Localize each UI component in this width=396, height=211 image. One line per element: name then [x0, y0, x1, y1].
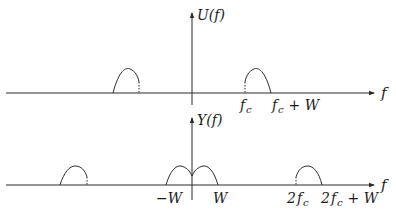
tick-label-fc: f c	[239, 97, 252, 115]
tick-label-W: W	[213, 190, 229, 206]
bottom-left-lobe	[60, 166, 87, 185]
spectrum-diagram: U(f) f f c f c + W Y(f) f −W	[0, 0, 396, 211]
top-x-axis-label: f	[380, 84, 389, 102]
tick-label-2fc-plus-W: 2 f c + W	[320, 190, 380, 208]
bottom-right-lobe	[296, 166, 322, 185]
tick-label-fc-plus-W: f c + W	[271, 97, 321, 115]
bottom-x-axis-label: f	[380, 176, 389, 194]
top-right-lobe	[245, 68, 271, 93]
top-left-lobe	[113, 68, 139, 93]
bottom-y-axis-label: Y(f)	[197, 112, 222, 128]
tick-label-minus-W: −W	[156, 190, 184, 206]
svg-text:2: 2	[320, 190, 330, 206]
svg-text:2: 2	[286, 190, 296, 206]
svg-text:+ W: + W	[343, 190, 380, 206]
top-plot-U: U(f) f f c f c + W	[6, 7, 389, 115]
bottom-plot-Y: Y(f) f −W W 2 f c 2 f c + W	[6, 112, 389, 208]
baseband-right-lobe	[192, 166, 218, 185]
tick-label-2fc: 2 f c	[286, 190, 309, 208]
svg-text:c: c	[303, 197, 309, 208]
baseband-left-lobe	[166, 166, 192, 185]
svg-text:c: c	[246, 104, 252, 115]
svg-text:+ W: + W	[284, 97, 321, 113]
top-y-axis-label: U(f)	[197, 7, 225, 23]
